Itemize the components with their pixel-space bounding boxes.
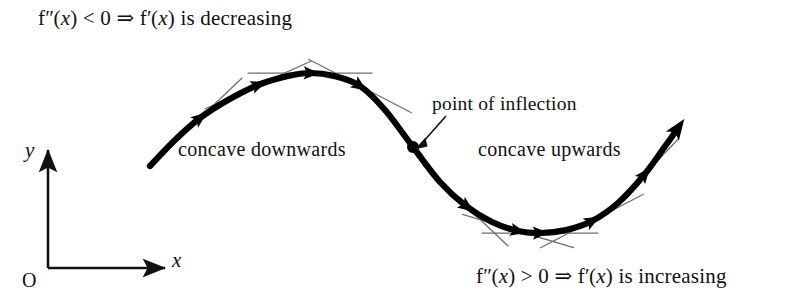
variable-x-bottom: x (499, 264, 509, 288)
relation-bottom: > 0 (521, 264, 549, 288)
origin-label: O (22, 270, 36, 290)
implies-arrow-bottom: ⇒ (555, 264, 573, 288)
concave-upwards-label: concave upwards (478, 139, 621, 159)
y-axis-label: y (25, 140, 34, 161)
conclusion-top: is decreasing (180, 6, 292, 30)
inflection-leader-arrow (415, 116, 447, 150)
paren-open-bottom: ( (491, 264, 498, 288)
point-of-inflection-label: point of inflection (432, 94, 577, 114)
relation-top: < 0 (83, 6, 111, 30)
implies-arrow-top: ⇒ (117, 6, 135, 30)
f-symbol-bottom-2: f (578, 264, 585, 288)
paren-close-top-2: ) (168, 6, 175, 30)
paren-close-bottom-2: ) (606, 264, 613, 288)
x-axis-label: x (172, 250, 181, 271)
second-derivative-negative-condition: f″(x) < 0 ⇒ f′(x) is decreasing (38, 8, 292, 29)
second-derivative-positive-condition: f″(x) > 0 ⇒ f′(x) is increasing (476, 266, 727, 287)
figure-canvas: f″(x) < 0 ⇒ f′(x) is decreasing f″(x) > … (0, 0, 808, 306)
paren-close-top: ) (70, 6, 77, 30)
variable-x-top-2: x (158, 6, 168, 30)
concave-downwards-label: concave downwards (178, 139, 346, 159)
f-symbol-top-2: f (140, 6, 147, 30)
paren-close-bottom: ) (508, 264, 515, 288)
variable-x-top: x (61, 6, 71, 30)
conclusion-bottom: is increasing (618, 264, 726, 288)
variable-x-bottom-2: x (596, 264, 606, 288)
paren-open-top: ( (53, 6, 60, 30)
concavity-diagram (0, 0, 808, 306)
